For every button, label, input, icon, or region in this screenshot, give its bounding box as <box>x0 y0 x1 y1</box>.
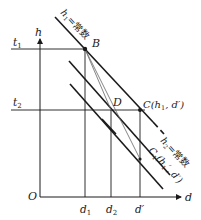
origin-label: O <box>28 190 37 203</box>
diagram-canvas: h d O t1 t2 d1 d2 d′ B D C(h1, d′) h1=常数… <box>0 0 201 220</box>
h1-const-line <box>55 17 153 122</box>
point-D-label: D <box>112 96 122 109</box>
diagram-svg: h d O t1 t2 d1 d2 d′ B D C(h1, d′) h1=常数… <box>0 0 201 220</box>
dprime-label: d′ <box>135 203 145 215</box>
y-axis-label: h <box>35 26 42 39</box>
d1-label: d1 <box>80 203 91 217</box>
x-axis-label: d <box>185 191 192 204</box>
t2-label: t2 <box>13 96 22 110</box>
point-B-label: B <box>91 37 100 50</box>
point-C <box>138 108 142 112</box>
t1-label: t1 <box>13 36 22 50</box>
point-B <box>83 47 87 51</box>
point-C1 <box>138 157 141 160</box>
short-diagonal <box>102 119 116 134</box>
point-C-label: C(h1, d′) <box>143 99 184 112</box>
b-to-d-line <box>85 49 111 110</box>
h1-const-dashed <box>153 122 164 134</box>
d2-label: d2 <box>106 203 117 217</box>
